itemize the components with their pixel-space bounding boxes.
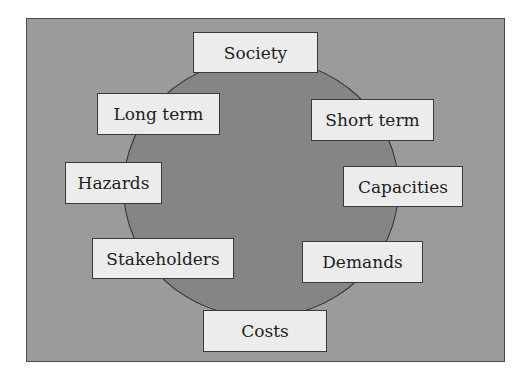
label-long-term: Long term [97,93,220,135]
label-capacities: Capacities [343,166,463,207]
label-short-term: Short term [311,99,434,141]
label-costs: Costs [203,310,327,352]
label-text: Long term [114,104,204,124]
label-text: Capacities [358,177,448,197]
label-text: Costs [241,321,289,341]
label-text: Society [224,43,287,63]
label-hazards: Hazards [65,162,162,204]
label-society: Society [193,32,318,73]
label-stakeholders: Stakeholders [92,238,234,279]
label-demands: Demands [302,241,423,283]
label-text: Demands [322,252,403,272]
label-text: Hazards [78,173,150,193]
label-text: Short term [325,110,419,130]
label-text: Stakeholders [106,249,219,269]
